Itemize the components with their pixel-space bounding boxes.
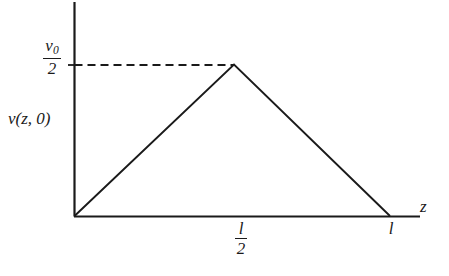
variable-v: v [45, 36, 53, 55]
x-axis-tick-label-half-l: l 2 [224, 220, 258, 257]
subscript-zero: 0 [53, 44, 59, 57]
fraction-denominator: 2 [43, 59, 60, 77]
fraction-numerator: l [235, 220, 248, 239]
velocity-profile-figure: v0 2 v(z, 0) l 2 l z [0, 0, 449, 276]
fraction-denominator: 2 [235, 239, 248, 257]
fraction-half-v0: v0 2 [43, 37, 60, 77]
fraction-numerator: v0 [43, 37, 60, 59]
y-axis-value-label-half-v0: v0 2 [34, 37, 70, 77]
x-axis-title: z [420, 198, 427, 215]
fraction-half-l: l 2 [235, 220, 248, 257]
y-axis-title: v(z, 0) [8, 110, 50, 127]
x-axis-tick-label-l: l [383, 220, 399, 237]
triangular-profile-curve [75, 65, 391, 217]
